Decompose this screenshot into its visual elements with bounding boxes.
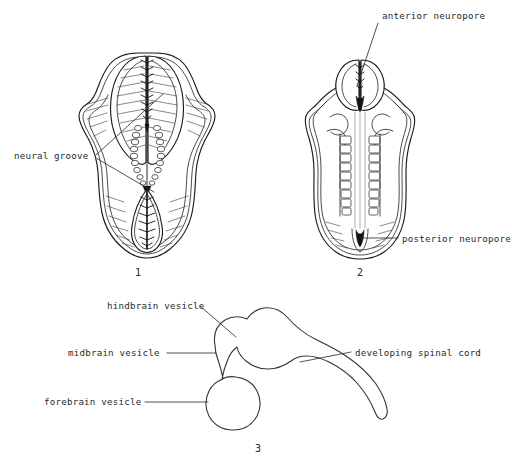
label-anterior-neuropore: anterior neuropore	[382, 10, 485, 21]
figure-2-somite-column-right	[369, 136, 380, 215]
label-posterior-neuropore: posterior neuropore	[402, 233, 511, 244]
diagram-canvas: neural groove anterior neuropore posteri…	[0, 0, 512, 467]
figure-1-group	[79, 53, 215, 258]
neurulation-figure-root: neural groove anterior neuropore posteri…	[0, 0, 512, 467]
figure-number-3: 3	[255, 443, 261, 454]
label-hindbrain-vesicle: hindbrain vesicle	[107, 300, 204, 311]
figure-number-1: 1	[135, 267, 141, 278]
figure-2-group	[305, 60, 415, 259]
figure-number-2: 2	[357, 267, 363, 278]
figure-3-brain-and-cord-outline	[206, 308, 387, 430]
figure-3-group	[206, 308, 387, 430]
label-developing-spinal-cord: developing spinal cord	[355, 347, 481, 358]
label-forebrain-vesicle: forebrain vesicle	[44, 396, 141, 407]
label-midbrain-vesicle: midbrain vesicle	[68, 347, 160, 358]
figure-2-somite-column-left	[340, 136, 351, 215]
label-neural-groove: neural groove	[14, 150, 89, 161]
